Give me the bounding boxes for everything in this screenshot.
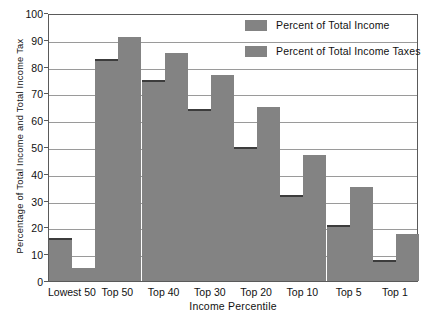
bar-taxes bbox=[350, 187, 373, 281]
x-axis-tick-label: Top 40 bbox=[141, 286, 187, 298]
bar-income bbox=[95, 59, 118, 281]
bar-income bbox=[327, 225, 350, 281]
bar-taxes bbox=[165, 53, 188, 281]
bar-group bbox=[95, 15, 141, 281]
x-axis-tick-label: Top 20 bbox=[233, 286, 279, 298]
y-axis-tick-label: 70 bbox=[3, 89, 43, 99]
y-axis-tick-label: 10 bbox=[3, 250, 43, 260]
bar-taxes bbox=[211, 75, 234, 281]
y-axis-tick-labels: 0102030405060708090100 bbox=[0, 0, 48, 323]
legend-entry-percent-of-total-income-taxes: Percent of Total Income Taxes bbox=[245, 46, 421, 57]
bar-taxes bbox=[396, 234, 419, 281]
bar-income bbox=[188, 109, 211, 281]
bar-taxes bbox=[118, 37, 141, 281]
x-axis-tick-label: Top 1 bbox=[372, 286, 418, 298]
y-axis-tick-label: 80 bbox=[3, 63, 43, 73]
y-axis-tick-label: 0 bbox=[3, 277, 43, 287]
x-axis-tick-label: Top 30 bbox=[187, 286, 233, 298]
x-axis-tick-label: Top 50 bbox=[94, 286, 140, 298]
legend-swatch-icon bbox=[245, 20, 267, 31]
bar-group bbox=[49, 15, 95, 281]
bar-income bbox=[373, 260, 396, 281]
y-axis-tick-label: 60 bbox=[3, 116, 43, 126]
bar-taxes bbox=[257, 107, 280, 281]
y-axis-tick-label: 90 bbox=[3, 36, 43, 46]
y-axis-tick-label: 20 bbox=[3, 223, 43, 233]
x-axis-title: Income Percentile bbox=[48, 300, 418, 312]
bar-income bbox=[142, 80, 165, 281]
x-axis-tick-label: Top 5 bbox=[326, 286, 372, 298]
bar-taxes bbox=[72, 268, 95, 281]
legend-label: Percent of Total Income Taxes bbox=[276, 46, 421, 57]
bar-taxes bbox=[303, 155, 326, 281]
bar-income bbox=[234, 147, 257, 281]
bar-income bbox=[280, 195, 303, 281]
legend-entry-percent-of-total-income: Percent of Total Income bbox=[245, 20, 390, 31]
y-axis-tick-label: 100 bbox=[3, 9, 43, 19]
x-axis-tick-label: Top 10 bbox=[279, 286, 325, 298]
y-axis-tick-label: 40 bbox=[3, 170, 43, 180]
y-axis-tick-label: 50 bbox=[3, 143, 43, 153]
bar-income bbox=[49, 238, 72, 281]
legend-swatch-icon bbox=[245, 46, 267, 57]
plot-area: Percent of Total Income Percent of Total… bbox=[48, 14, 418, 282]
bar-group bbox=[142, 15, 188, 281]
y-axis-tick-label: 30 bbox=[3, 197, 43, 207]
bar-chart: Percentage of Total Income and Total Inc… bbox=[0, 0, 430, 323]
bar-group bbox=[188, 15, 234, 281]
legend-label: Percent of Total Income bbox=[276, 20, 390, 31]
x-axis-tick-label: Lowest 50 bbox=[48, 286, 94, 298]
